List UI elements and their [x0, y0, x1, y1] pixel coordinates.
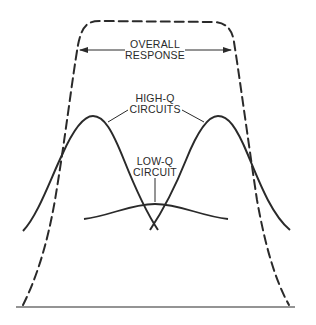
low-q-circuit-label: LOW-Q CIRCUIT: [125, 156, 185, 178]
overall-label-line2: RESPONSE: [125, 50, 185, 61]
highq-leader-right: [182, 110, 204, 122]
lowq-label-line2: CIRCUIT: [125, 167, 185, 178]
response-diagram: OVERALL RESPONSE HIGH-Q CIRCUITS LOW-Q C…: [0, 0, 316, 325]
overall-response-label: OVERALL RESPONSE: [125, 39, 185, 61]
high-q-circuits-label: HIGH-Q CIRCUITS: [125, 93, 185, 115]
arrowhead-right-icon: [223, 47, 232, 53]
highq-label-line2: CIRCUITS: [125, 104, 185, 115]
arrowhead-left-icon: [79, 47, 88, 53]
low-q-curve: [84, 204, 228, 219]
